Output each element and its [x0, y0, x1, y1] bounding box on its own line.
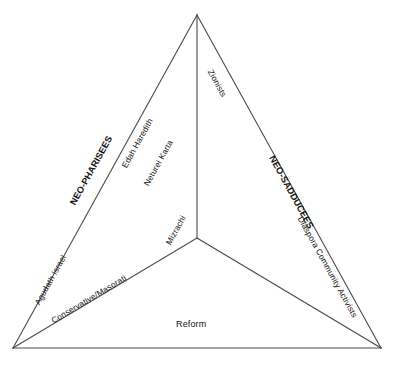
- triangle-diagram: NEO-PHARISEES NEO-SADDUCEES Zionists Eda…: [0, 0, 395, 367]
- edge-label-reform: Reform: [176, 320, 206, 329]
- spoke-lower-right: [197, 238, 381, 348]
